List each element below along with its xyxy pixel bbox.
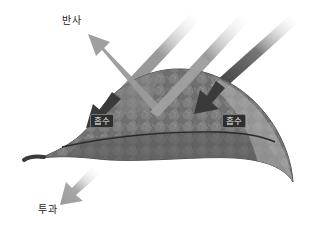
absorption-right-badge: 흡수 [222, 114, 246, 128]
absorption-left-badge: 흡수 [90, 114, 114, 128]
transmission-label: 투과 [38, 201, 57, 216]
leaf [24, 69, 300, 190]
light-leaf-diagram: 반사 흡수 흡수 투과 [0, 0, 315, 231]
incoming-light-right-arrow [216, 15, 299, 88]
transmitted-light-arrow [60, 167, 100, 205]
reflection-label: 반사 [62, 12, 81, 27]
leaf-petiole [24, 156, 44, 160]
